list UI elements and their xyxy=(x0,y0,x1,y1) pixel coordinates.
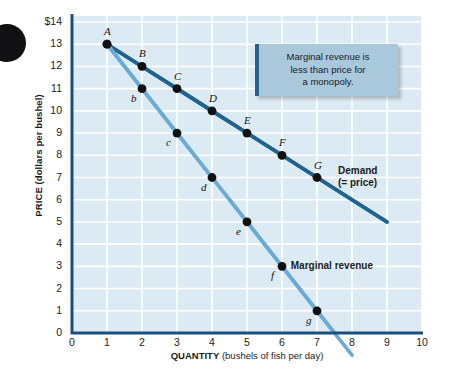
point-label-g: g xyxy=(306,314,312,326)
series-label-demand-line2: (= price) xyxy=(338,177,377,189)
callout-monopoly: Marginal revenue is less than price for … xyxy=(255,44,398,96)
series-label-demand-line1: Demand xyxy=(338,165,377,177)
point-label-C: C xyxy=(174,70,181,82)
callout-line-1: Marginal revenue is xyxy=(264,51,392,64)
series-label-demand: Demand (= price) xyxy=(338,165,377,189)
callout-line-2: less than price for xyxy=(264,64,392,77)
point-label-c: c xyxy=(166,136,171,148)
chart-figure: PRICE (dollars per bushel) QUANTITY (bus… xyxy=(0,0,451,377)
point-label-e: e xyxy=(236,225,241,237)
point-label-B: B xyxy=(139,47,146,59)
point-label-A: A xyxy=(104,25,111,37)
point-label-d: d xyxy=(201,181,207,193)
series-label-marginal-revenue: Marginal revenue xyxy=(291,260,373,272)
point-label-D: D xyxy=(209,92,217,104)
callout-line-3: a monopoly. xyxy=(264,76,392,89)
point-label-G: G xyxy=(314,159,322,171)
point-label-E: E xyxy=(244,114,251,126)
point-label-b: b xyxy=(131,92,137,104)
point-label-F: F xyxy=(279,136,286,148)
point-label-f: f xyxy=(271,269,274,281)
